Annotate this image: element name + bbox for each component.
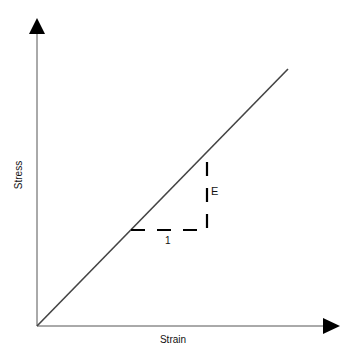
y-axis-label: Stress [13,161,24,189]
slope-label: E [211,185,218,197]
x-axis-arrow-icon [323,318,340,334]
y-axis-arrow-icon [29,18,45,34]
stress-strain-diagram: E 1 Strain Stress [0,0,356,360]
elastic-line [37,69,288,326]
x-axis-label: Strain [160,334,186,345]
run-label: 1 [165,235,171,246]
